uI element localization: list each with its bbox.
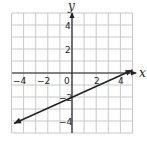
y-axis-label: y bbox=[67, 0, 75, 13]
y-tick-label: −4 bbox=[59, 117, 73, 127]
x-tick-label: 4 bbox=[118, 76, 124, 86]
x-tick-label: −2 bbox=[37, 76, 50, 86]
coordinate-plane: x y −4 −2 0 2 4 4 2 −2 −4 bbox=[0, 0, 147, 141]
x-axis-label: x bbox=[139, 66, 146, 80]
x-tick-label: −4 bbox=[13, 76, 27, 86]
y-tick-label: 4 bbox=[65, 21, 71, 31]
x-axis-arrow-icon bbox=[131, 71, 137, 76]
y-tick-label: 2 bbox=[65, 45, 71, 55]
x-tick-label: 0 bbox=[64, 76, 70, 86]
axes: x y bbox=[12, 0, 146, 133]
